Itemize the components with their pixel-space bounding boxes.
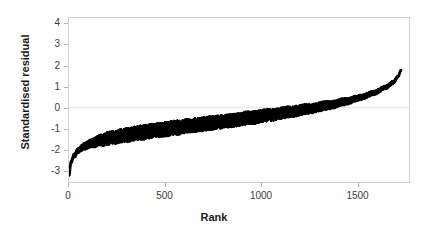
x-axis-title: Rank — [0, 211, 428, 223]
x-tick-mark — [68, 183, 69, 187]
x-tick-label: 500 — [145, 191, 185, 201]
plot-area — [68, 17, 410, 183]
y-axis-title: Standardised residual — [19, 17, 31, 167]
y-tick-label: 3 — [44, 39, 60, 49]
x-tick-mark — [165, 183, 166, 187]
y-tick-label: -3 — [44, 166, 60, 176]
y-tick-label: 4 — [44, 18, 60, 28]
x-tick-mark — [261, 183, 262, 187]
x-tick-label: 0 — [48, 191, 88, 201]
y-tick-label: -2 — [44, 145, 60, 155]
x-tick-label: 1000 — [241, 191, 281, 201]
y-tick-label: -1 — [44, 124, 60, 134]
y-tick-label: 2 — [44, 61, 60, 71]
y-tick-label: 0 — [44, 103, 60, 113]
chart-page: Standardised residual 43210-1-2-3 050010… — [0, 0, 428, 236]
y-tick-label: 1 — [44, 82, 60, 92]
scatter-plot-canvas — [69, 18, 409, 182]
x-tick-label: 1500 — [338, 191, 378, 201]
x-tick-mark — [358, 183, 359, 187]
